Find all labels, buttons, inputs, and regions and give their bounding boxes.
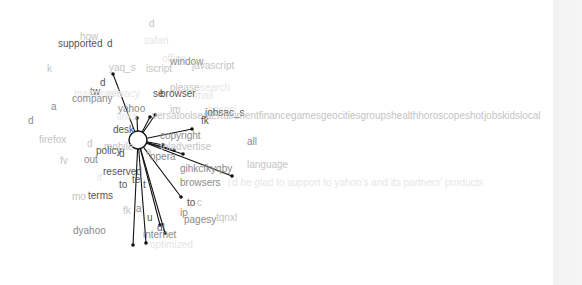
graph-word[interactable]: browsers	[180, 178, 221, 188]
edge-endpoint-dot[interactable]	[144, 241, 148, 245]
graph-word[interactable]: desk	[113, 125, 134, 135]
graph-word[interactable]: to	[187, 198, 195, 208]
graph-word[interactable]: d	[87, 139, 93, 149]
graph-edge	[133, 149, 138, 245]
graph-word[interactable]: u	[147, 213, 153, 223]
graph-word[interactable]: optimized	[150, 240, 193, 250]
graph-word[interactable]: opera	[150, 152, 176, 162]
graph-word[interactable]: i'd be glad to support to yahoo's and it…	[228, 178, 483, 188]
graph-word[interactable]: firefox	[39, 135, 66, 145]
graph-word[interactable]: tqnxl	[216, 213, 237, 223]
graph-word[interactable]: policy	[96, 146, 122, 156]
graph-word[interactable]: mo	[72, 192, 86, 202]
graph-word[interactable]: fk	[201, 116, 209, 126]
graph-word[interactable]: versatoolsentertainmentfinancegamesgeoci…	[152, 111, 541, 121]
graph-word[interactable]: gihkcfkyqby	[180, 164, 232, 174]
edge-endpoint-dot[interactable]	[131, 243, 135, 247]
graph-word[interactable]: if	[97, 173, 102, 183]
graph-word[interactable]: a	[51, 102, 57, 112]
graph-word[interactable]: to	[119, 180, 127, 190]
graph-word[interactable]: javascript	[192, 61, 234, 71]
graph-word[interactable]: language	[247, 160, 288, 170]
graph-word[interactable]: d	[119, 149, 125, 159]
word-graph-canvas: dhowsupporteddsafariofficewindowjavascri…	[0, 0, 553, 285]
graph-word[interactable]: a	[136, 204, 142, 214]
graph-word[interactable]: c	[197, 198, 202, 208]
graph-word[interactable]: pagesy	[184, 215, 216, 225]
graph-word[interactable]: iscript	[146, 64, 172, 74]
graph-word[interactable]: t	[143, 180, 146, 190]
graph-word[interactable]: safari	[144, 36, 168, 46]
graph-word[interactable]: privacy	[108, 89, 140, 99]
edge-endpoint-dot[interactable]	[181, 152, 185, 156]
graph-word[interactable]: copyright	[160, 131, 201, 141]
graph-word[interactable]: d	[149, 19, 155, 29]
graph-word[interactable]: fk	[123, 206, 131, 216]
graph-word[interactable]: out	[84, 155, 98, 165]
graph-word[interactable]: yaq_s	[109, 63, 136, 73]
graph-word[interactable]: d	[107, 39, 113, 49]
graph-word[interactable]: mail	[195, 91, 213, 101]
edge-endpoint-dot[interactable]	[179, 195, 183, 199]
graph-word[interactable]: fv	[60, 156, 68, 166]
graph-word[interactable]: k	[47, 64, 52, 74]
graph-word[interactable]: all	[247, 137, 257, 147]
graph-word[interactable]: d	[100, 78, 106, 88]
graph-word[interactable]: dyahoo	[73, 226, 106, 236]
graph-word[interactable]: browser	[160, 89, 196, 99]
graph-word[interactable]: terms	[88, 191, 113, 201]
graph-word[interactable]: d	[28, 116, 34, 126]
graph-word[interactable]: supported	[58, 39, 102, 49]
graph-word[interactable]: te	[132, 175, 140, 185]
graph-edge	[137, 118, 138, 131]
graph-word[interactable]: links	[117, 112, 137, 122]
graph-word[interactable]: company	[72, 94, 113, 104]
side-panel-strip[interactable]	[553, 0, 582, 285]
